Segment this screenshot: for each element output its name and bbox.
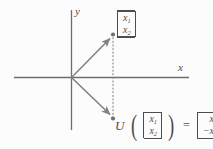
result-row-1: x1 (203, 113, 213, 125)
input-vector-point (111, 32, 115, 36)
input-vector-matrix: x1 x2 (117, 11, 136, 37)
open-paren: ( (131, 111, 137, 140)
input-vector-label: x1 x2 (117, 11, 136, 37)
result-row-2: −x2 (203, 125, 213, 137)
close-paren: ) (168, 111, 174, 140)
x-axis-label: x (178, 62, 183, 73)
equation-argument-matrix: x1 x2 (143, 112, 162, 138)
input-vector-row-1: x1 (123, 12, 131, 24)
argument-row-1: x1 (149, 113, 157, 125)
input-vector-row-2: x2 (123, 24, 131, 36)
equals-sign: = (180, 119, 193, 131)
y-axis-label: y (75, 6, 80, 17)
transformation-equation: U ( x1 x2 ) = x1 −x2 (115, 111, 213, 140)
equation-result-matrix: x1 −x2 (197, 112, 213, 138)
output-vector-arrow (72, 78, 111, 115)
argument-row-2: x2 (149, 125, 157, 137)
input-vector-arrow (72, 39, 111, 78)
function-name-U: U (115, 119, 125, 132)
figure-canvas: y x x1 x2 U ( x1 x2 ) = x1 −x2 (0, 0, 213, 149)
